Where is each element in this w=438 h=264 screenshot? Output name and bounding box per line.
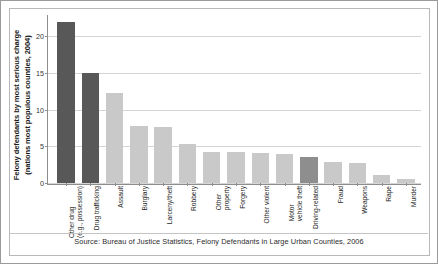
bar-slot: [297, 15, 321, 183]
x-label-slot: Rape: [370, 186, 394, 232]
y-tick-mark-0: [45, 183, 48, 184]
x-axis-label: Robbery: [190, 186, 198, 211]
x-axis-label: Burglary: [141, 186, 149, 211]
gridline-0: 0: [48, 183, 421, 184]
bar[interactable]: [252, 153, 269, 183]
x-label-slot: Other violent: [248, 186, 272, 232]
plot-frame: 05101520: [47, 15, 421, 185]
x-axis-label: Other violent: [263, 186, 271, 223]
x-label-slot: Fraud: [321, 186, 345, 232]
x-label-slot: Larceny/theft: [151, 186, 175, 232]
bar-slot: [103, 15, 127, 183]
bar-slot: [394, 15, 418, 183]
plot-area: 05101520: [47, 15, 421, 185]
bar-series: [49, 15, 421, 183]
bar[interactable]: [130, 126, 147, 183]
x-label-slot: Assault: [102, 186, 126, 232]
bar-slot: [127, 15, 151, 183]
bar[interactable]: [57, 22, 74, 183]
bar[interactable]: [324, 162, 341, 183]
bar-slot: [224, 15, 248, 183]
x-label-slot: Drug trafficking: [77, 186, 101, 232]
x-label-slot: Driving-related: [297, 186, 321, 232]
bar[interactable]: [300, 157, 317, 183]
bar[interactable]: [82, 73, 99, 183]
bar[interactable]: [373, 175, 390, 183]
y-tick-label-20: 20: [36, 32, 44, 41]
bar-slot: [175, 15, 199, 183]
bar[interactable]: [227, 152, 244, 183]
bar[interactable]: [106, 93, 123, 183]
bar[interactable]: [349, 163, 366, 183]
x-axis-label: Forgery: [239, 186, 247, 209]
x-axis-label: Fraud: [337, 186, 345, 203]
bar[interactable]: [276, 154, 293, 183]
x-label-slot: Motorvehicle theft: [273, 186, 297, 232]
x-label-slot: Forgery: [224, 186, 248, 232]
y-tick-mark-15: [45, 73, 48, 74]
x-axis-label: Rape: [385, 186, 393, 202]
bar-slot: [321, 15, 345, 183]
y-tick-mark-10: [45, 110, 48, 111]
x-axis-label: Larceny/theft: [166, 186, 174, 224]
y-tick-label-10: 10: [36, 105, 44, 114]
bar-slot: [272, 15, 296, 183]
x-label-slot: Robbery: [175, 186, 199, 232]
source-separator: [10, 233, 428, 234]
x-axis-label: Weapons: [361, 186, 369, 214]
y-axis-title: Felony defendants by most serious charge…: [11, 7, 35, 203]
bar-slot: [200, 15, 224, 183]
x-label-slot: Otherproperty: [199, 186, 223, 232]
bar-slot: [151, 15, 175, 183]
x-axis-labels: Other drug(e.g., possession)Drug traffic…: [48, 186, 422, 232]
source-caption: Source: Bureau of Justice Statistics, Fe…: [1, 237, 437, 246]
bar-slot: [345, 15, 369, 183]
x-label-slot: Weapons: [346, 186, 370, 232]
bar-slot: [78, 15, 102, 183]
y-tick-label-15: 15: [36, 68, 44, 77]
bar-slot: [54, 15, 78, 183]
x-label-slot: Other drug(e.g., possession): [53, 186, 77, 232]
y-tick-label-0: 0: [40, 179, 44, 188]
x-label-slot: Murder: [395, 186, 419, 232]
x-axis-label: Murder: [410, 186, 418, 207]
y-tick-mark-5: [45, 146, 48, 147]
x-axis-label: Driving-related: [312, 186, 320, 229]
bar[interactable]: [203, 152, 220, 183]
y-tick-mark-20: [45, 36, 48, 37]
bar[interactable]: [154, 127, 171, 183]
chart-figure: Felony defendants by most serious charge…: [0, 0, 438, 264]
bar[interactable]: [179, 144, 196, 183]
x-label-slot: Burglary: [126, 186, 150, 232]
x-axis-label: Assault: [117, 186, 125, 208]
y-tick-label-5: 5: [40, 142, 44, 151]
bar-slot: [248, 15, 272, 183]
x-axis-label: Drug trafficking: [93, 186, 101, 230]
bar-slot: [369, 15, 393, 183]
